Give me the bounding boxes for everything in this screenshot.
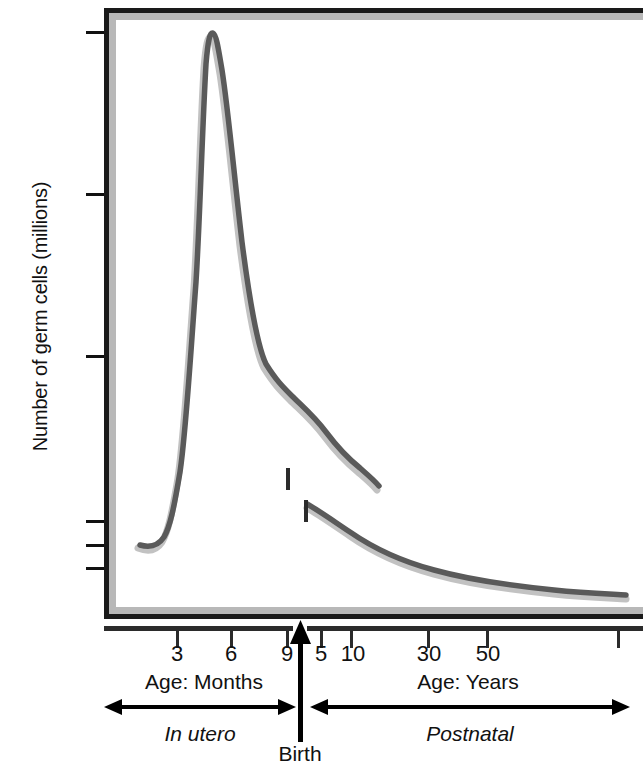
y-tick-mark-06 bbox=[86, 544, 106, 547]
x-axis-line-left bbox=[104, 626, 293, 631]
y-tick-mark-1 bbox=[86, 520, 106, 523]
y-axis-title: Number of germ cells (millions) bbox=[29, 107, 52, 527]
birth-arrow-marker bbox=[290, 620, 311, 742]
x-tick-label-50: 50 bbox=[476, 641, 500, 667]
x-axis-caption-months: Age: Months bbox=[145, 670, 263, 694]
postnatal-range-arrow bbox=[310, 699, 630, 715]
x-tick-end bbox=[617, 631, 620, 648]
y-tick-mark-3 bbox=[86, 355, 106, 358]
germ-cell-curve bbox=[104, 8, 643, 619]
x-tick-label-3: 3 bbox=[171, 641, 183, 667]
birth-label: Birth bbox=[278, 742, 321, 762]
curve-main-group bbox=[140, 33, 626, 595]
curve-shadow-in-utero bbox=[138, 37, 377, 550]
y-tick-mark-5 bbox=[86, 193, 106, 196]
range-label-postnatal: Postnatal bbox=[426, 722, 514, 746]
x-tick-label-5: 5 bbox=[315, 641, 327, 667]
curve-shadow-postnatal bbox=[307, 508, 626, 599]
y-tick-mark-03 bbox=[86, 567, 106, 570]
in-utero-range-arrow bbox=[104, 699, 296, 715]
x-tick-label-9: 9 bbox=[281, 641, 293, 667]
x-tick-label-30: 30 bbox=[417, 641, 441, 667]
x-axis-line-right bbox=[307, 626, 643, 631]
x-axis-caption-years: Age: Years bbox=[417, 670, 519, 694]
x-axis-group bbox=[0, 600, 643, 762]
x-tick-label-6: 6 bbox=[225, 641, 237, 667]
x-tick-label-10: 10 bbox=[341, 641, 365, 667]
curve-shadow-group bbox=[138, 37, 626, 599]
y-tick-mark-7 bbox=[86, 31, 106, 34]
chart-figure: Number of germ cells (millions) 7.0 5.0 … bbox=[0, 0, 643, 762]
range-label-in-utero: In utero bbox=[164, 722, 235, 746]
